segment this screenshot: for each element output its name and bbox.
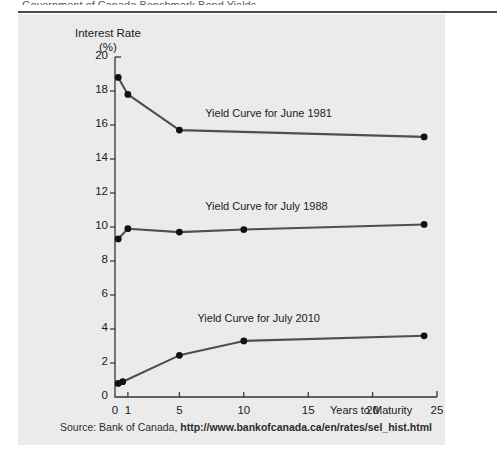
- y-tick-label: 2: [80, 355, 108, 367]
- y-tick-label: 6: [80, 287, 108, 299]
- y-tick-label: 4: [80, 321, 108, 333]
- x-tick-label: 20: [363, 404, 383, 416]
- series-annotation-1981: Yield Curve for June 1981: [205, 107, 332, 119]
- source-note: Source: Bank of Canada, http://www.banko…: [60, 421, 432, 433]
- x-tick-label: 1: [118, 404, 138, 416]
- y-tick-label: 12: [80, 185, 108, 197]
- y-tick-label: 0: [80, 389, 108, 401]
- y-axis-title: Interest Rate: [75, 27, 141, 39]
- x-tick-label: 5: [169, 404, 189, 416]
- source-url: http://www.bankofcanada.ca/en/rates/sel_…: [180, 421, 432, 433]
- series-annotation-2010: Yield Curve for July 2010: [197, 312, 320, 324]
- x-tick-label: 15: [298, 404, 318, 416]
- series-annotation-1988: Yield Curve for July 1988: [205, 200, 328, 212]
- y-tick-label: 8: [80, 253, 108, 265]
- y-tick-label: 10: [80, 219, 108, 231]
- page-header-fragment: Government of Canada Benchmark Bond Yiel…: [22, 0, 442, 5]
- y-tick-label: 20: [80, 49, 108, 61]
- y-tick-label: 14: [80, 151, 108, 163]
- source-prefix: Source: Bank of Canada,: [60, 421, 177, 433]
- header-divider-rule: [18, 11, 497, 13]
- x-tick-label: 10: [234, 404, 254, 416]
- x-tick-label: 25: [427, 404, 447, 416]
- y-tick-label: 18: [80, 83, 108, 95]
- y-tick-label: 16: [80, 117, 108, 129]
